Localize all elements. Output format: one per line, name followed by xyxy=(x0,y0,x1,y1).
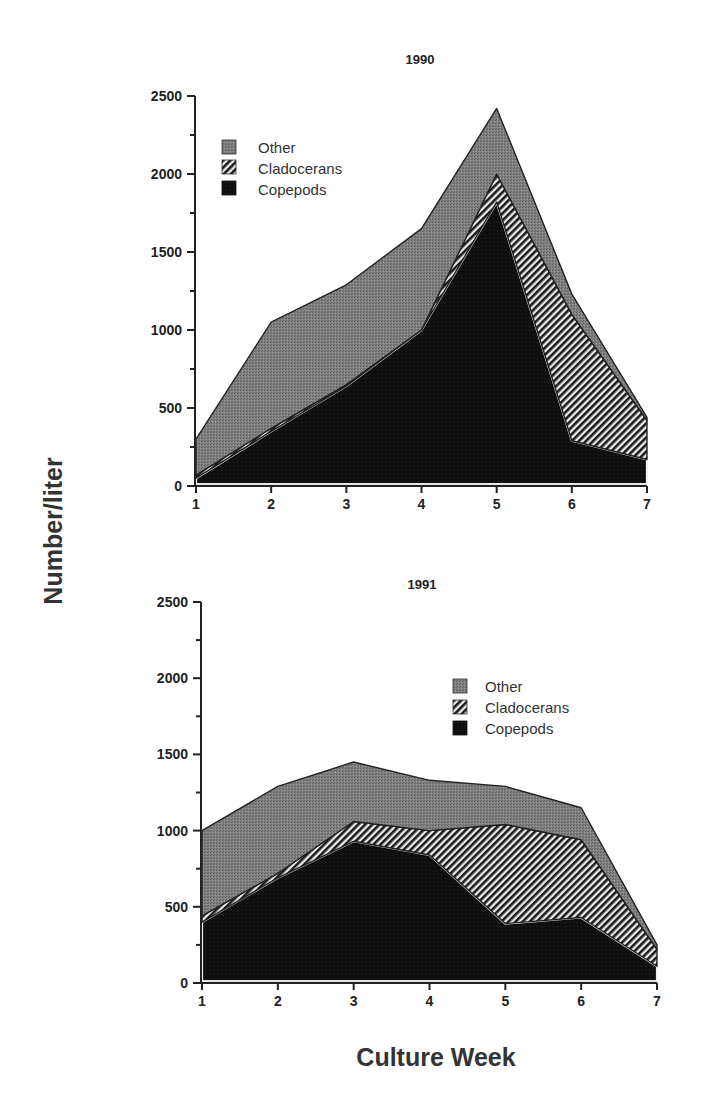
chart-title-1991: 1991 xyxy=(408,577,437,592)
y-tick-label: 2000 xyxy=(151,166,182,182)
x-tick-label: 3 xyxy=(350,993,358,1009)
y-tick-label: 0 xyxy=(174,478,182,494)
x-tick-label: 5 xyxy=(501,993,509,1009)
x-tick-label: 5 xyxy=(493,496,501,512)
legend-swatch-other xyxy=(453,679,467,693)
y-tick-label: 2500 xyxy=(157,594,188,610)
legend-label-copepods: Copepods xyxy=(485,720,553,737)
legend-label-cladocerans: Cladocerans xyxy=(485,699,569,716)
legend-label-cladocerans: Cladocerans xyxy=(258,160,342,177)
figure: 1990 05001000150020002500 1234567 Other … xyxy=(0,0,708,1102)
x-tick-label: 2 xyxy=(267,496,275,512)
legend-label-other: Other xyxy=(258,139,296,156)
y-tick-label: 500 xyxy=(159,400,183,416)
x-tick-label: 3 xyxy=(342,496,350,512)
y-tick-label: 1000 xyxy=(151,322,182,338)
x-axis-1991: 1234567 xyxy=(198,983,661,1009)
x-tick-label: 1 xyxy=(192,496,200,512)
x-tick-label: 1 xyxy=(198,993,206,1009)
y-axis-title: Number/liter xyxy=(39,457,67,605)
y-tick-label: 1500 xyxy=(151,244,182,260)
y-tick-label: 0 xyxy=(180,975,188,991)
legend-swatch-other xyxy=(222,140,236,154)
legend-label-copepods: Copepods xyxy=(258,181,326,198)
chart-1990: 1990 05001000150020002500 1234567 Other … xyxy=(151,52,651,512)
x-tick-label: 2 xyxy=(274,993,282,1009)
legend-1991: Other Cladocerans Copepods xyxy=(453,678,569,737)
chart-title-1990: 1990 xyxy=(406,52,435,67)
y-tick-label: 2500 xyxy=(151,88,182,104)
x-tick-label: 4 xyxy=(418,496,426,512)
x-tick-label: 6 xyxy=(577,993,585,1009)
y-tick-label: 1500 xyxy=(157,746,188,762)
legend-swatch-cladocerans xyxy=(222,160,236,174)
legend-swatch-cladocerans xyxy=(453,700,467,714)
legend-swatch-copepods xyxy=(453,721,467,735)
legend-label-other: Other xyxy=(485,678,523,695)
y-tick-label: 500 xyxy=(165,899,189,915)
plot-area-1991 xyxy=(202,762,657,983)
legend-swatch-copepods xyxy=(222,181,236,195)
x-tick-label: 7 xyxy=(643,496,651,512)
chart-1991: 1991 05001000150020002500 1234567 Other … xyxy=(157,577,661,1009)
y-tick-label: 1000 xyxy=(157,823,188,839)
y-axis-1991: 05001000150020002500 xyxy=(157,594,201,991)
y-axis-1990: 05001000150020002500 xyxy=(151,88,195,494)
y-tick-label: 2000 xyxy=(157,670,188,686)
x-tick-label: 6 xyxy=(568,496,576,512)
legend-1990: Other Cladocerans Copepods xyxy=(222,139,342,198)
x-tick-label: 7 xyxy=(653,993,661,1009)
x-axis-1990: 1234567 xyxy=(192,486,651,512)
x-axis-title: Culture Week xyxy=(356,1043,515,1071)
x-tick-label: 4 xyxy=(426,993,434,1009)
